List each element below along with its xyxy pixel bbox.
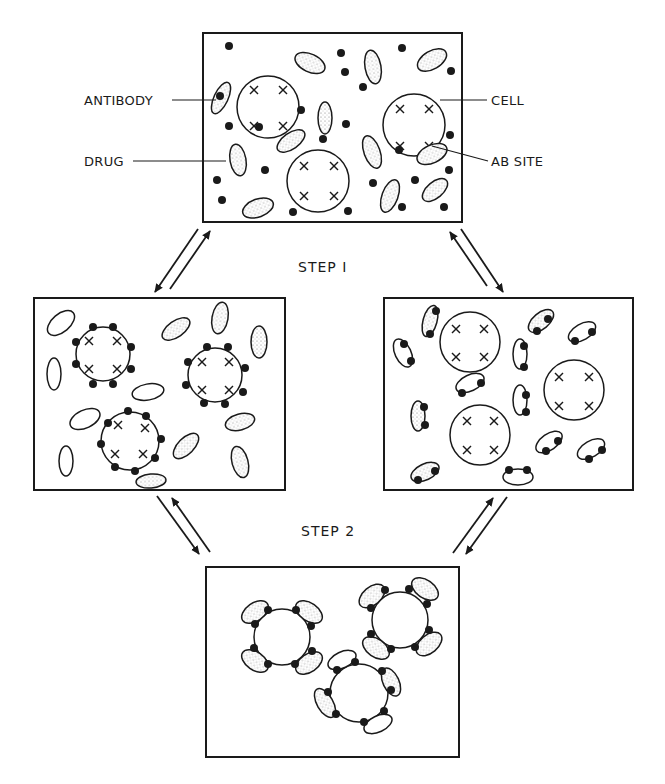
panel-right bbox=[384, 298, 633, 490]
panel-bottom bbox=[206, 567, 459, 757]
panel-left bbox=[34, 298, 285, 490]
diagram-canvas: ANTIBODY DRUG CELL AB SITE STEP I bbox=[0, 0, 665, 784]
step-1-label: STEP I bbox=[298, 259, 347, 275]
label-cell: CELL bbox=[491, 93, 524, 108]
cell bbox=[440, 312, 500, 372]
cell bbox=[450, 405, 510, 465]
panel-top: ANTIBODY DRUG CELL AB SITE bbox=[84, 33, 543, 222]
equilibrium-arrows-left-bottom bbox=[157, 496, 210, 554]
equilibrium-arrows-top-right bbox=[450, 229, 503, 292]
cell bbox=[237, 76, 299, 138]
label-antibody: ANTIBODY bbox=[84, 93, 153, 108]
equilibrium-arrows-top-left bbox=[155, 229, 210, 292]
step-2-label: STEP 2 bbox=[301, 523, 355, 539]
equilibrium-arrows-right-bottom bbox=[453, 497, 507, 554]
label-drug: DRUG bbox=[84, 154, 124, 169]
label-ab-site: AB SITE bbox=[491, 154, 543, 169]
cell bbox=[287, 150, 349, 212]
cell bbox=[544, 360, 604, 420]
